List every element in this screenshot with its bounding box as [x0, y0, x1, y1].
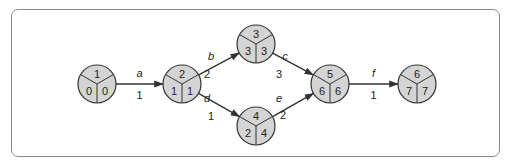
node-3: 333 — [237, 25, 275, 63]
edge-c: c3 — [273, 50, 314, 80]
edge-b: b2 — [199, 50, 240, 80]
activity-label: e — [276, 92, 282, 104]
node-earliest-time: 6 — [319, 85, 325, 97]
node-id: 5 — [327, 68, 333, 80]
node-earliest-time: 0 — [86, 85, 92, 97]
node-earliest-time: 1 — [171, 85, 177, 97]
node-2: 211 — [163, 65, 201, 103]
node-earliest-time: 2 — [245, 127, 251, 139]
node-latest-time: 7 — [422, 85, 428, 97]
node-id: 6 — [414, 68, 420, 80]
node-id: 2 — [179, 68, 185, 80]
node-id: 1 — [94, 68, 100, 80]
node-earliest-time: 3 — [245, 45, 251, 57]
node-5: 566 — [311, 65, 349, 103]
activity-label: d — [204, 92, 211, 104]
node-id: 3 — [253, 28, 259, 40]
activity-duration: 1 — [370, 89, 376, 101]
node-1: 100 — [78, 65, 116, 103]
activity-duration: 2 — [280, 109, 286, 121]
node-id: 4 — [253, 110, 259, 122]
node-latest-time: 6 — [335, 85, 341, 97]
edge-a: a1 — [116, 67, 163, 101]
activity-duration: 1 — [208, 110, 214, 122]
network-diagram: a1b2d1c3e2f1 100211333424566677 — [0, 0, 514, 168]
node-4: 424 — [237, 107, 275, 145]
activity-label: b — [208, 50, 214, 62]
node-latest-time: 3 — [261, 45, 267, 57]
node-latest-time: 4 — [261, 127, 267, 139]
activity-label: c — [282, 50, 288, 62]
edge-e: e2 — [273, 92, 314, 121]
node-earliest-time: 7 — [406, 85, 412, 97]
activity-duration: 2 — [204, 68, 210, 80]
node-latest-time: 0 — [102, 85, 108, 97]
activity-duration: 3 — [276, 68, 282, 80]
edge-f: f1 — [349, 67, 398, 101]
activity-label: a — [136, 67, 142, 79]
activity-duration: 1 — [136, 89, 142, 101]
activity-label: f — [372, 67, 376, 79]
node-6: 677 — [398, 65, 436, 103]
node-latest-time: 1 — [187, 85, 193, 97]
edge-d: d1 — [199, 92, 240, 122]
